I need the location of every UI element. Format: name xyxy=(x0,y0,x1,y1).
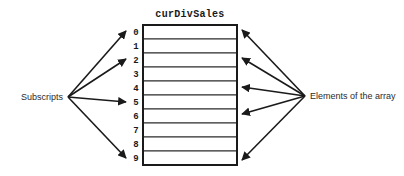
array-cell-3 xyxy=(143,67,237,81)
subscript-label-7: 7 xyxy=(133,126,138,136)
array-cell-8 xyxy=(143,137,237,151)
elements-label: Elements of the array xyxy=(310,91,396,101)
array-cell-0 xyxy=(143,25,237,39)
subscript-label-1: 1 xyxy=(133,42,139,52)
subscript-label-9: 9 xyxy=(133,154,138,164)
element-pointers xyxy=(242,30,305,160)
subscript-label-3: 3 xyxy=(133,70,138,80)
subscript-pointers xyxy=(68,31,126,158)
subscripts-label: Subscripts xyxy=(21,92,64,102)
subscript-pointer-to-9 xyxy=(68,97,126,158)
array-cell-1 xyxy=(143,39,237,53)
subscript-label-8: 8 xyxy=(133,140,138,150)
subscript-label-5: 5 xyxy=(133,98,138,108)
array-cell-7 xyxy=(143,123,237,137)
subscript-label-6: 6 xyxy=(133,112,138,122)
array-cell-9 xyxy=(143,151,237,165)
array-title: curDivSales xyxy=(155,9,224,20)
subscript-pointer-to-5 xyxy=(68,97,126,102)
array-cell-5 xyxy=(143,95,237,109)
diagram-canvas: curDivSales 0 1 2 3 4 5 6 7 8 9 xyxy=(0,0,404,176)
array-cells xyxy=(143,25,237,165)
array-cell-4 xyxy=(143,81,237,95)
element-pointer-to-4 xyxy=(242,87,305,96)
subscript-label-2: 2 xyxy=(133,56,138,66)
array-cell-2 xyxy=(143,53,237,67)
subscript-label-4: 4 xyxy=(133,84,139,94)
array-cell-6 xyxy=(143,109,237,123)
array-diagram: curDivSales 0 1 2 3 4 5 6 7 8 9 xyxy=(0,0,404,176)
subscript-column: 0 1 2 3 4 5 6 7 8 9 xyxy=(133,28,139,164)
subscript-label-0: 0 xyxy=(133,28,138,38)
